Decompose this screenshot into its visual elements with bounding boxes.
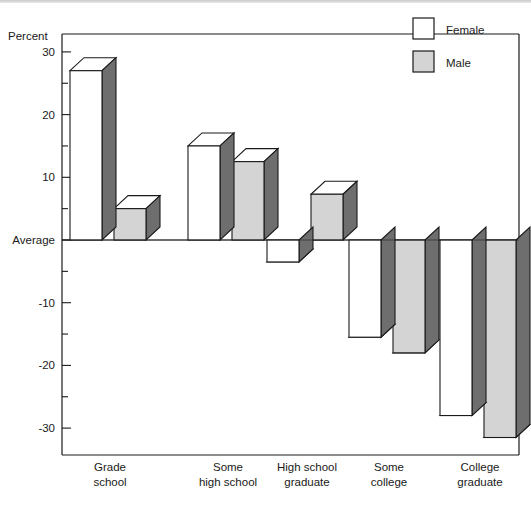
y-axis-title: Percent <box>8 30 48 42</box>
bar-side-face <box>381 227 395 337</box>
category-label-1: Some <box>213 461 243 473</box>
bar-female-2 <box>267 227 313 262</box>
legend-swatch-male <box>413 51 434 72</box>
legend-swatch-female <box>413 18 434 39</box>
bar-front-face <box>393 240 425 353</box>
y-tick-label: -30 <box>38 422 55 434</box>
category-label-0: school <box>93 476 126 488</box>
category-label-2: High school <box>277 461 337 473</box>
bar-female-0 <box>70 58 116 240</box>
x-axis-category-labels: GradeschoolSomehigh schoolHigh schoolgra… <box>93 461 502 488</box>
category-label-4: graduate <box>457 476 502 488</box>
bar-front-face <box>232 162 264 240</box>
category-label-0: Grade <box>94 461 126 473</box>
category-label-3: Some <box>374 461 404 473</box>
bars-layer <box>70 58 530 438</box>
category-label-1: high school <box>199 476 257 488</box>
bar-front-face <box>114 209 146 240</box>
bar-front-face <box>440 240 472 416</box>
bar-female-1 <box>188 133 234 240</box>
grouped-bar-chart: Percent 302010Average-10-20-30 Gradescho… <box>0 0 531 508</box>
y-tick-label: -10 <box>38 297 55 309</box>
y-tick-label: 20 <box>42 109 55 121</box>
bar-male-1 <box>232 149 278 240</box>
bar-front-face <box>188 146 220 240</box>
category-label-4: College <box>461 461 500 473</box>
bar-side-face <box>102 58 116 240</box>
chart-legend: FemaleMale <box>413 18 484 72</box>
y-tick-label: Average <box>12 234 55 246</box>
bar-male-0 <box>114 196 160 240</box>
category-label-2: graduate <box>284 476 329 488</box>
bar-side-face <box>516 227 530 438</box>
bar-male-3 <box>393 227 439 353</box>
bar-front-face <box>349 240 381 337</box>
bar-front-face <box>70 71 102 240</box>
bar-side-face <box>220 133 234 240</box>
bar-front-face <box>311 194 343 240</box>
bar-side-face <box>472 227 486 416</box>
bar-male-2 <box>311 181 357 240</box>
bar-side-face <box>264 149 278 240</box>
bar-front-face <box>267 240 299 262</box>
bar-female-4 <box>440 227 486 416</box>
bar-side-face <box>299 227 313 262</box>
bar-side-face <box>425 227 439 353</box>
y-tick-label: 10 <box>42 171 55 183</box>
bar-front-face <box>484 240 516 438</box>
legend-label-female: Female <box>446 24 484 36</box>
bar-female-3 <box>349 227 395 337</box>
legend-label-male: Male <box>446 57 471 69</box>
chart-page: Percent 302010Average-10-20-30 Gradescho… <box>0 0 531 508</box>
category-label-3: college <box>371 476 407 488</box>
y-tick-label: -20 <box>38 359 55 371</box>
bar-male-4 <box>484 227 530 438</box>
y-tick-label: 30 <box>42 46 55 58</box>
